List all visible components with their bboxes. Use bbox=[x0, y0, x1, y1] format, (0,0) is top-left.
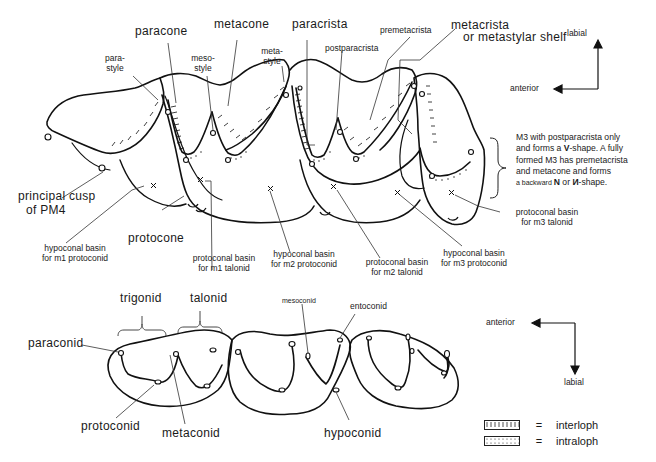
label-protoconal-m1-line2: for m1 talonid bbox=[184, 264, 264, 274]
label-postparacrista: postparacrista bbox=[325, 44, 378, 54]
m3-note-line5-mid: or bbox=[560, 177, 572, 187]
label-talonid: talonid bbox=[190, 292, 227, 306]
label-trigonid: trigonid bbox=[120, 292, 162, 306]
m3-note-line4: and metacone and forms bbox=[516, 166, 628, 177]
label-paracone: paracone bbox=[135, 25, 187, 39]
m3-note-line5-post: -shape. bbox=[579, 177, 608, 187]
label-labial-upper: labial bbox=[567, 29, 587, 39]
label-anterior-upper: anterior bbox=[510, 84, 539, 94]
m2-outline bbox=[290, 59, 417, 150]
label-protoconal-m1: protoconal basin for m1 talonid bbox=[184, 254, 264, 274]
label-hypoconal-m1-line2: for m1 protoconid bbox=[30, 254, 120, 264]
label-metastylar-shelf: or metastylar shelf bbox=[463, 31, 567, 45]
label-hypoconal-m3-line2: for m3 protoconid bbox=[432, 259, 516, 269]
label-mesostyle: meso- style bbox=[188, 54, 218, 74]
label-principal-cusp-line1: principal cusp bbox=[18, 190, 96, 204]
label-hypoconal-m2: hypoconal basin for m2 protoconid bbox=[262, 250, 346, 270]
label-anterior-lower: anterior bbox=[486, 318, 515, 328]
label-protoconal-m3: protoconal basin for m3 talonid bbox=[505, 208, 589, 228]
m3-note-line2-post: -shape. A fully bbox=[570, 143, 624, 153]
m3-note-brace bbox=[490, 138, 506, 198]
label-entoconid: entoconid bbox=[350, 302, 387, 312]
orientation-arrows-upper bbox=[554, 40, 602, 93]
dentition-diagram: paracone metacone paracrista premetacris… bbox=[0, 0, 656, 462]
m3-note-line2: and forms a V-shape. A fully bbox=[516, 143, 628, 154]
m3-note-line5-small: a backward bbox=[516, 179, 554, 186]
label-protocone: protocone bbox=[128, 232, 184, 246]
m3-outline bbox=[414, 74, 485, 225]
hatched-bar-icon bbox=[484, 420, 520, 430]
label-protoconid: protoconid bbox=[81, 420, 140, 434]
legend-equals: = bbox=[530, 419, 548, 431]
label-principal-cusp-line2: of PM4 bbox=[18, 204, 96, 218]
label-metastyle: meta- style bbox=[257, 47, 287, 67]
label-parastyle-line2: style bbox=[100, 64, 130, 74]
m3-note-line5: a backward N or И-shape. bbox=[516, 177, 628, 188]
label-paracrista: paracrista bbox=[292, 18, 348, 32]
label-premetacrista: premetacrista bbox=[380, 26, 432, 36]
label-hypoconid: hypoconid bbox=[324, 427, 381, 441]
label-mesoconid: mesoconid bbox=[282, 297, 316, 305]
label-principal-cusp: principal cusp of PM4 bbox=[18, 190, 96, 218]
trigonid-talonid-braces bbox=[118, 311, 222, 336]
label-paraconid: paraconid bbox=[28, 337, 83, 351]
label-hypoconal-m2-line2: for m2 protoconid bbox=[262, 260, 346, 270]
label-protoconal-m2: protoconal basin for m2 talonid bbox=[355, 258, 439, 278]
m3-note-line1: M3 with postparacrista only bbox=[516, 132, 628, 143]
legend-label-interloph: interloph bbox=[556, 419, 598, 431]
m3-note: M3 with postparacrista only and forms a … bbox=[516, 132, 628, 189]
label-metastyle-line2: style bbox=[257, 57, 287, 67]
orientation-arrows-lower bbox=[532, 319, 579, 374]
label-hypoconal-m3: hypoconal basin for m3 protoconid bbox=[432, 249, 516, 269]
legend-equals: = bbox=[530, 435, 548, 447]
legend-item-intraloph: = intraloph bbox=[484, 435, 598, 447]
label-hypoconal-m1: hypoconal basin for m1 protoconid bbox=[30, 244, 120, 264]
label-labial-lower: labial bbox=[564, 378, 584, 388]
label-mesostyle-line2: style bbox=[188, 64, 218, 74]
pm4-cusp-circle bbox=[45, 134, 51, 140]
label-metaconid: metaconid bbox=[162, 427, 220, 441]
label-parastyle: para- style bbox=[100, 54, 130, 74]
tooth-drawing bbox=[0, 0, 656, 462]
m3-note-line2-pre: and forms a bbox=[516, 143, 564, 153]
lower-m1-outline bbox=[108, 330, 232, 406]
legend-label-intraloph: intraloph bbox=[556, 435, 598, 447]
label-protoconal-m3-line2: for m3 talonid bbox=[505, 218, 589, 228]
dotted-bar-icon bbox=[484, 436, 520, 446]
label-metacone: metacone bbox=[214, 18, 269, 32]
label-protoconal-m2-line2: for m2 talonid bbox=[355, 268, 439, 278]
m3-note-line3: formed M3 has premetacrista bbox=[516, 155, 628, 166]
legend-item-interloph: = interloph bbox=[484, 419, 598, 431]
